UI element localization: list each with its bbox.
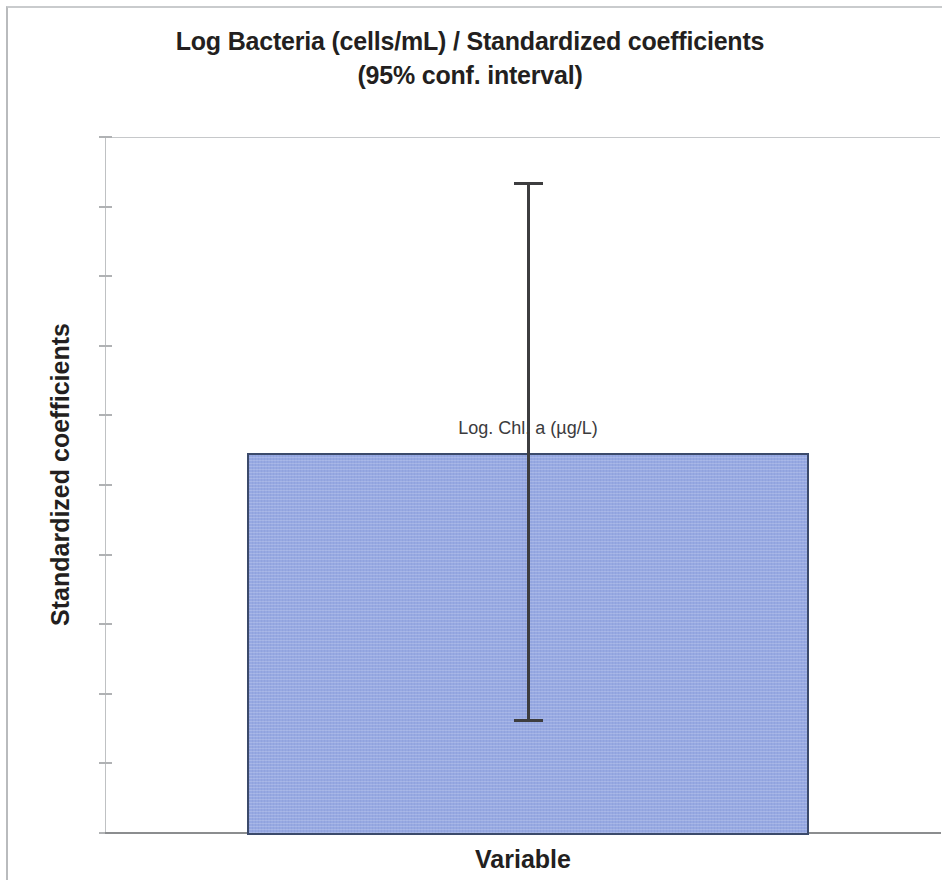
chart-figure: Log Bacteria (cells/mL) / Standardized c…: [0, 0, 945, 883]
error-bar-whisker: [527, 182, 530, 722]
y-axis-tick-mark: [99, 693, 112, 695]
y-axis-tick-mark: [99, 623, 112, 625]
y-axis-tick-mark: [99, 275, 112, 277]
y-axis-tick-mark: [99, 345, 112, 347]
y-axis-tick-mark: [99, 136, 112, 138]
chart-title-line-1: Log Bacteria (cells/mL) / Standardized c…: [60, 24, 880, 58]
y-axis-tick-mark: [99, 484, 112, 486]
error-bar-cap-lower: [514, 719, 543, 722]
y-axis-tick-mark: [99, 554, 112, 556]
chart-title-line-2: (95% conf. interval): [60, 58, 880, 92]
y-axis-tick-mark: [99, 414, 112, 416]
bar-data-label: Log. Chl. a (µg/L): [378, 418, 678, 439]
x-axis-title: Variable: [105, 845, 941, 874]
y-axis-title: Standardized coefficients: [46, 125, 75, 825]
y-axis-tick-mark: [99, 206, 112, 208]
chart-title: Log Bacteria (cells/mL) / Standardized c…: [60, 24, 880, 92]
error-bar-cap-upper: [514, 182, 543, 185]
y-axis-tick-mark: [99, 762, 112, 764]
